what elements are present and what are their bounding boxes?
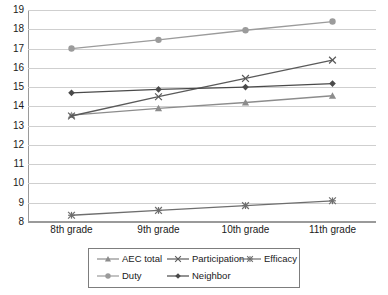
x-axis-tick-label: 11th grade <box>293 224 373 235</box>
x-axis-tick-label: 8th grade <box>32 224 112 235</box>
plot-area <box>28 10 376 222</box>
y-axis-tick-label: 18 <box>0 24 24 34</box>
x-axis-tick-label: 9th grade <box>119 224 199 235</box>
series-aec-total <box>68 92 336 118</box>
y-axis-tick-label: 10 <box>0 178 24 188</box>
data-point-star <box>242 202 249 209</box>
legend-item-aec-total[interactable]: AEC total <box>97 254 162 264</box>
series-duty <box>68 18 335 51</box>
y-axis-tick-label: 11 <box>0 159 24 169</box>
legend-label: AEC total <box>122 254 162 264</box>
legend-marker-icon <box>167 271 189 281</box>
data-point-circle <box>105 273 110 278</box>
y-axis-tick-label: 8 <box>0 217 24 227</box>
y-axis-tick-label: 12 <box>0 140 24 150</box>
data-point-star <box>155 207 162 214</box>
data-point-circle <box>68 45 74 51</box>
data-point-star <box>247 256 253 262</box>
legend-label: Duty <box>122 271 142 281</box>
data-point-diamond <box>329 80 336 87</box>
legend-label: Efficacy <box>264 254 297 264</box>
series-neighbor <box>68 80 336 96</box>
y-axis-tick-label: 17 <box>0 44 24 54</box>
series-efficacy <box>68 197 336 218</box>
data-point-circle <box>329 18 335 24</box>
data-point-diamond <box>175 273 181 279</box>
data-point-star <box>329 197 336 204</box>
gridline <box>28 222 376 223</box>
data-point-diamond <box>155 86 162 93</box>
x-axis-tick-label: 10th grade <box>206 224 286 235</box>
line-chart: 1918171615141312111098 8th grade9th grad… <box>0 0 388 295</box>
legend-row: AEC totalParticipationEfficacy <box>89 252 301 269</box>
data-point-circle <box>242 27 248 33</box>
legend-item-neighbor[interactable]: Neighbor <box>167 271 231 281</box>
y-axis-tick-label: 14 <box>0 101 24 111</box>
legend-marker-icon <box>97 254 119 264</box>
data-point-star <box>68 212 75 219</box>
legend-marker-icon <box>97 271 119 281</box>
y-axis-tick-label: 9 <box>0 198 24 208</box>
y-axis-tick-label: 13 <box>0 121 24 131</box>
chart-legend: AEC totalParticipationEfficacyDutyNeighb… <box>88 248 300 288</box>
legend-row: DutyNeighbor <box>89 269 301 286</box>
data-point-diamond <box>68 90 75 97</box>
legend-marker-icon <box>239 254 261 264</box>
legend-item-participation[interactable]: Participation <box>167 254 244 264</box>
legend-label: Neighbor <box>192 271 231 281</box>
series-lines <box>28 10 376 222</box>
legend-marker-icon <box>167 254 189 264</box>
data-point-circle <box>155 37 161 43</box>
y-axis-tick-label: 19 <box>0 5 24 15</box>
y-axis-tick-label: 16 <box>0 63 24 73</box>
legend-label: Participation <box>192 254 244 264</box>
legend-item-efficacy[interactable]: Efficacy <box>239 254 297 264</box>
legend-item-duty[interactable]: Duty <box>97 271 142 281</box>
y-axis-tick-label: 15 <box>0 82 24 92</box>
data-point-diamond <box>242 84 249 91</box>
